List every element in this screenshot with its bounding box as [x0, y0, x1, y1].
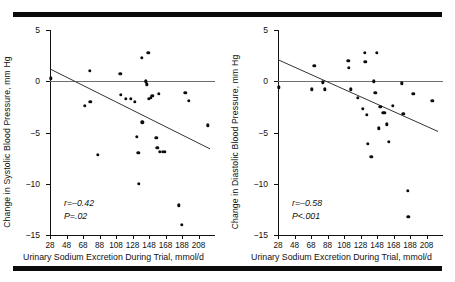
x-axis-tick — [83, 235, 84, 239]
x-axis-tick — [394, 235, 395, 239]
x-axis-tick — [410, 235, 411, 239]
x-axis-tick-label: 68 — [78, 241, 87, 250]
chart-panel-systolic: Change in Systolic Blood Pressure, mm Hg… — [0, 24, 227, 264]
y-axis-tick-label: −15 — [25, 230, 40, 240]
x-axis-tick — [278, 235, 279, 239]
x-axis-tick — [311, 235, 312, 239]
x-axis-tick-label: 28 — [273, 241, 282, 250]
p-value: P=.02 — [64, 211, 87, 221]
x-axis-tick — [100, 235, 101, 239]
stats-annotation-diastolic: r=–0.58 P<.001 — [292, 197, 322, 223]
x-axis-tick — [116, 235, 117, 239]
y-axis-tick-label: −5 — [30, 128, 40, 138]
x-axis-tick — [328, 235, 329, 239]
x-axis-tick-label: 108 — [337, 241, 351, 250]
y-axis-tick-label: −10 — [253, 179, 268, 189]
x-axis-tick — [133, 235, 134, 239]
x-axis-tick-label: 108 — [109, 241, 123, 250]
x-axis-tick-label: 28 — [45, 241, 54, 250]
x-axis-tick-label: 168 — [159, 241, 173, 250]
y-axis-tick-label: −15 — [253, 230, 268, 240]
x-axis-tick — [67, 235, 68, 239]
x-axis-tick-label: 208 — [420, 241, 434, 250]
x-axis-label-systolic: Urinary Sodium Excretion During Trial, m… — [0, 252, 227, 262]
x-axis-tick-label: 188 — [403, 241, 417, 250]
y-axis-tick-label: −10 — [25, 179, 40, 189]
x-axis-label-diastolic: Urinary Sodium Excretion During Trial, m… — [228, 252, 455, 262]
top-rule — [13, 12, 442, 17]
x-axis-tick — [199, 235, 200, 239]
x-axis-tick-label: 208 — [192, 241, 206, 250]
x-axis-tick — [166, 235, 167, 239]
correlation-value: r=–0.58 — [292, 198, 322, 208]
x-axis-tick — [50, 235, 51, 239]
stats-annotation-systolic: r=–0.42 P=.02 — [64, 197, 94, 223]
x-axis-tick-label: 168 — [387, 241, 401, 250]
x-axis-tick — [361, 235, 362, 239]
y-axis-label-systolic: Change in Systolic Blood Pressure, mm Hg — [2, 0, 16, 42]
x-axis-tick — [427, 235, 428, 239]
x-axis-tick-label: 68 — [306, 241, 315, 250]
x-axis-tick-label: 48 — [62, 241, 71, 250]
x-axis-tick-label: 148 — [370, 241, 384, 250]
x-axis-tick-label: 128 — [126, 241, 140, 250]
x-axis-tick-label: 88 — [95, 241, 104, 250]
p-value: P<.001 — [292, 211, 320, 221]
x-axis-tick — [344, 235, 345, 239]
x-axis-tick-label: 48 — [290, 241, 299, 250]
x-axis-tick-label: 128 — [354, 241, 368, 250]
x-axis-tick-label: 88 — [323, 241, 332, 250]
x-axis-tick-label: 188 — [175, 241, 189, 250]
x-axis-tick — [149, 235, 150, 239]
y-axis-label-diastolic: Change in Diastolic Blood Pressure, mm H… — [230, 0, 244, 42]
x-axis-tick-label: 148 — [142, 241, 156, 250]
x-axis-tick — [182, 235, 183, 239]
y-axis-tick-label: 5 — [35, 25, 40, 35]
bottom-rule — [13, 266, 442, 271]
y-axis-tick-label: −5 — [258, 128, 268, 138]
y-axis-tick-label: 5 — [263, 25, 268, 35]
x-axis-tick — [295, 235, 296, 239]
y-axis-tick-label: 0 — [35, 76, 40, 86]
y-axis-tick-label: 0 — [263, 76, 268, 86]
x-axis-tick — [377, 235, 378, 239]
correlation-value: r=–0.42 — [64, 198, 94, 208]
chart-panel-diastolic: Change in Diastolic Blood Pressure, mm H… — [228, 24, 455, 264]
